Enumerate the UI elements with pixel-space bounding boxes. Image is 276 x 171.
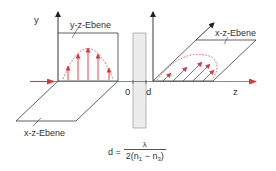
- origin-label: 0: [125, 87, 130, 97]
- left-xz-label-leader: [33, 118, 41, 126]
- denominator-suffix: ): [161, 151, 164, 161]
- x-axis: [196, 23, 214, 40]
- left-xz-plane: [16, 81, 118, 121]
- formula-denominator: 2(n1 − n3): [124, 149, 166, 164]
- wave-plate: [133, 33, 146, 128]
- yz-field-arrows: [68, 48, 109, 80]
- yz-plane-label: y-z-Ebene: [70, 20, 111, 30]
- denominator-minus: − n: [142, 151, 157, 161]
- formula-lhs: d =: [108, 147, 121, 157]
- z-axis-label: z: [233, 87, 238, 97]
- thickness-formula: d = λ 2(n1 − n3): [108, 140, 166, 164]
- formula-numerator: λ: [141, 140, 149, 149]
- thickness-label: d: [146, 87, 151, 97]
- right-xz-label-leader: [224, 37, 228, 44]
- left-xz-plane-label: x-z-Ebene: [24, 128, 65, 138]
- xz-field-arrows: [163, 62, 214, 81]
- denominator-prefix: 2(n: [126, 151, 139, 161]
- right-xz-plane: [153, 40, 256, 81]
- formula-fraction: λ 2(n1 − n3): [124, 140, 166, 164]
- right-xz-plane-label: x-z-Ebene: [215, 28, 256, 38]
- y-axis-label: y: [34, 15, 39, 25]
